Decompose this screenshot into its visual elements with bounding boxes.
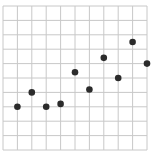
grid-lines [3,6,147,150]
data-point [29,89,36,96]
data-point [57,101,64,108]
data-point [101,55,108,62]
data-point [129,39,136,46]
data-point [72,69,79,76]
data-point [86,86,93,93]
data-point [144,60,151,67]
data-point [14,104,21,111]
scatter-chart [0,0,158,160]
data-point [43,104,50,111]
data-point [115,75,122,82]
